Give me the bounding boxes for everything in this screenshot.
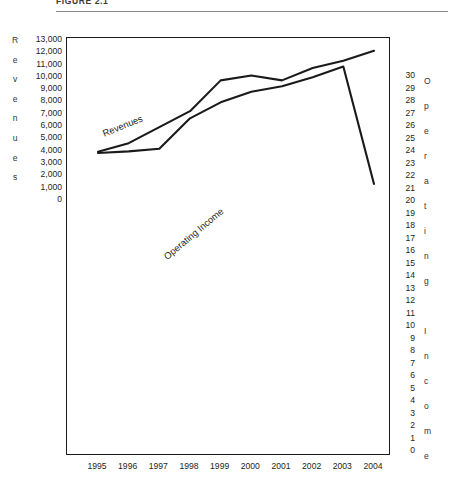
right-tick-label: 12 <box>398 294 415 307</box>
right-axis-title-letter: a <box>424 169 438 194</box>
left-tick-label: 13,000 <box>18 33 62 45</box>
left-tick-label: 2,000 <box>18 168 62 180</box>
right-tick-label: 11 <box>398 307 415 320</box>
left-tick-label: 7,000 <box>18 107 62 119</box>
right-tick-label: 15 <box>398 257 415 270</box>
right-tick-label: 22 <box>398 169 415 182</box>
left-tick-label: 8,000 <box>18 94 62 106</box>
right-axis-title-letter: t <box>424 194 438 219</box>
right-tick-label: 20 <box>398 194 415 207</box>
right-axis-title-letter: n <box>424 344 438 369</box>
right-tick-label: 7 <box>398 357 415 370</box>
series-line-operating-income <box>98 67 374 184</box>
right-axis-title-letter: n <box>424 244 438 269</box>
left-tick-label: 3,000 <box>18 156 62 168</box>
plot-frame <box>66 37 390 455</box>
header-rule <box>56 11 448 12</box>
right-axis-title-letter: I <box>424 319 438 344</box>
plot-svg <box>67 38 391 456</box>
right-tick-label: 0 <box>398 444 415 457</box>
right-axis-title-letter: i <box>424 219 438 244</box>
right-tick-label: 27 <box>398 107 415 120</box>
series-line-revenues <box>98 51 374 152</box>
right-axis-title-letter <box>424 294 438 319</box>
left-tick-label: 10,000 <box>18 70 62 82</box>
right-axis-title-letter: m <box>424 419 438 444</box>
right-tick-label: 25 <box>398 132 415 145</box>
right-tick-label: 10 <box>398 319 415 332</box>
right-tick-label: 28 <box>398 94 415 107</box>
right-tick-label: 16 <box>398 244 415 257</box>
right-tick-label: 13 <box>398 282 415 295</box>
right-tick-label: 21 <box>398 182 415 195</box>
right-tick-label: 26 <box>398 119 415 132</box>
right-tick-label: 14 <box>398 269 415 282</box>
left-tick-label: 5,000 <box>18 131 62 143</box>
right-tick-label: 9 <box>398 332 415 345</box>
right-tick-label: 18 <box>398 219 415 232</box>
left-tick-label: 12,000 <box>18 45 62 57</box>
right-axis-title-letter: e <box>424 119 438 144</box>
x-tick-label: 2004 <box>353 461 393 471</box>
left-tick-label: 1,000 <box>18 181 62 193</box>
right-tick-label: 3 <box>398 407 415 420</box>
right-tick-label: 19 <box>398 207 415 220</box>
right-tick-label: 4 <box>398 394 415 407</box>
figure-caption: FIGURE 2.1 <box>56 0 108 6</box>
right-tick-label: 30 <box>398 69 415 82</box>
right-axis-title-letter: r <box>424 144 438 169</box>
left-axis-ticks: 13,00012,00011,00010,0009,0008,0007,0006… <box>18 33 62 205</box>
right-axis-title-letter: O <box>424 69 438 94</box>
right-axis-ticks: 3029282726252423222120191817161514131211… <box>398 69 415 457</box>
right-tick-label: 29 <box>398 82 415 95</box>
right-tick-label: 5 <box>398 382 415 395</box>
right-tick-label: 8 <box>398 344 415 357</box>
right-tick-label: 23 <box>398 157 415 170</box>
figure-root: FIGURE 2.1 Revenues 13,00012,00011,00010… <box>0 0 454 493</box>
right-tick-label: 24 <box>398 144 415 157</box>
left-tick-label: 6,000 <box>18 119 62 131</box>
right-axis-title-letter: o <box>424 394 438 419</box>
right-axis-title-letter: p <box>424 94 438 119</box>
left-tick-label: 4,000 <box>18 144 62 156</box>
right-axis-title: Operating Income <box>424 69 438 469</box>
left-tick-label: 11,000 <box>18 58 62 70</box>
right-tick-label: 2 <box>398 419 415 432</box>
left-tick-label: 0 <box>18 193 62 205</box>
right-tick-label: 17 <box>398 232 415 245</box>
left-tick-label: 9,000 <box>18 82 62 94</box>
right-tick-label: 1 <box>398 432 415 445</box>
right-axis-title-letter: c <box>424 369 438 394</box>
right-tick-label: 6 <box>398 369 415 382</box>
right-axis-title-letter: g <box>424 269 438 294</box>
right-axis-title-letter: e <box>424 444 438 469</box>
x-axis-ticks: 1995199619971998199920002001200220032004 <box>66 461 390 475</box>
